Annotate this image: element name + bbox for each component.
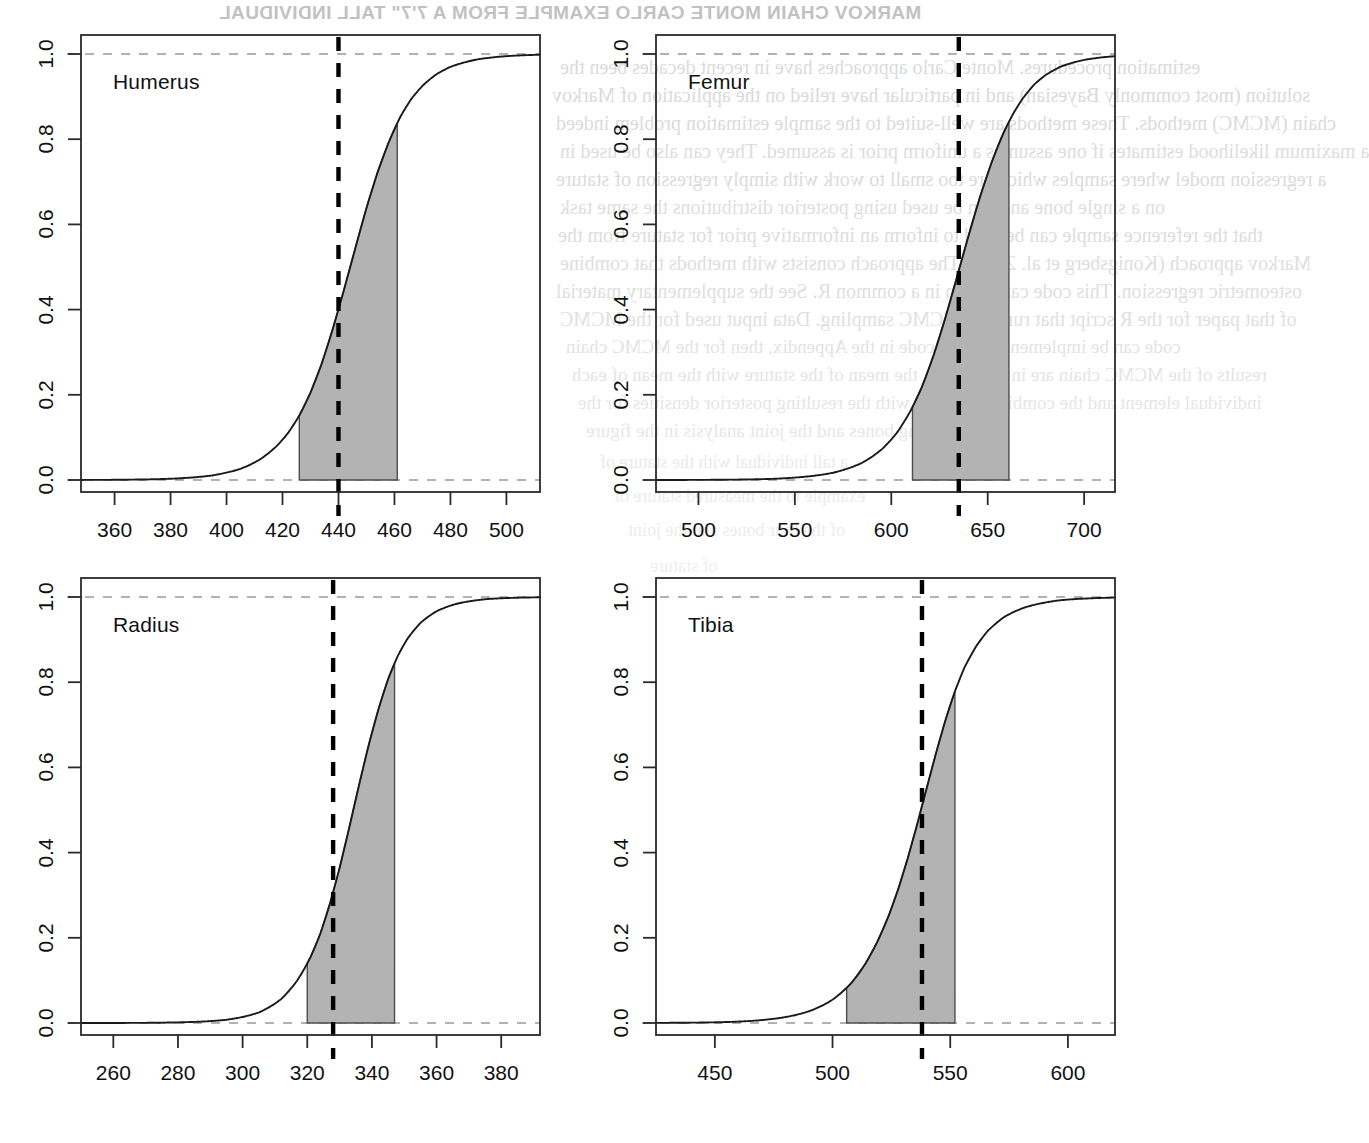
x-tick-label: 550 bbox=[915, 1061, 985, 1085]
y-tick-label: 0.8 bbox=[609, 655, 633, 709]
y-tick-label: 1.0 bbox=[609, 570, 633, 624]
x-tick-label: 450 bbox=[680, 1061, 750, 1085]
panel-title-tibia: Tibia bbox=[688, 613, 734, 637]
panel-title-femur: Femur bbox=[688, 70, 750, 94]
y-tick-label: 0.4 bbox=[609, 826, 633, 880]
panel-title-radius: Radius bbox=[113, 613, 180, 637]
x-tick-label: 500 bbox=[798, 1061, 868, 1085]
panel-title-humerus: Humerus bbox=[113, 70, 200, 94]
y-tick-label: 0.0 bbox=[609, 996, 633, 1050]
y-tick-label: 0.2 bbox=[609, 911, 633, 965]
y-tick-label: 0.6 bbox=[609, 740, 633, 794]
x-tick-label: 600 bbox=[1033, 1061, 1103, 1085]
